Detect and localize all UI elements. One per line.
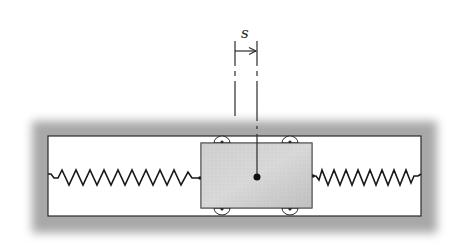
center-of-mass-dot <box>254 174 261 181</box>
spring-mass-diagram: s <box>0 0 457 245</box>
displacement-label: s <box>241 24 249 42</box>
